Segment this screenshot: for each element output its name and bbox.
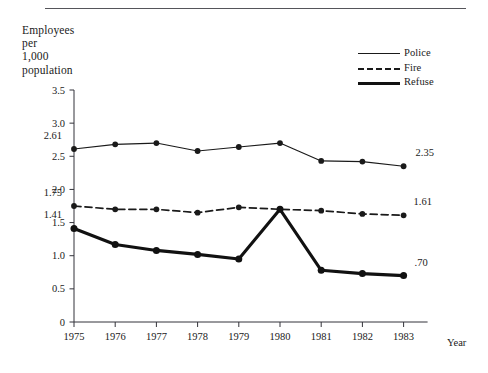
chart-container: Employees per 1,000 population Police Fi… bbox=[0, 0, 488, 373]
y-tick-label: 2.5 bbox=[52, 151, 65, 162]
point-label: 2.35 bbox=[416, 147, 434, 158]
y-tick-label: 0 bbox=[60, 317, 65, 328]
data-point-police bbox=[71, 146, 77, 152]
data-point-refuse bbox=[400, 272, 407, 279]
data-point-police bbox=[401, 163, 407, 169]
x-tick-label: 1982 bbox=[352, 331, 373, 342]
data-point-refuse bbox=[235, 256, 242, 263]
data-series bbox=[71, 140, 408, 279]
x-tick-label: 1983 bbox=[393, 331, 414, 342]
point-labels: 2.612.351.751.611.41.70 bbox=[44, 130, 434, 268]
y-axis: 00.51.01.52.02.53.03.5 bbox=[52, 85, 74, 328]
x-tick-label: 1978 bbox=[187, 331, 208, 342]
series-line-refuse bbox=[74, 209, 404, 275]
data-point-police bbox=[154, 140, 160, 146]
y-tick-label: 3.5 bbox=[52, 85, 65, 96]
data-point-fire bbox=[154, 206, 160, 212]
x-axis-caption: Year bbox=[447, 337, 466, 348]
y-tick-label: 3.0 bbox=[52, 118, 65, 129]
data-point-refuse bbox=[112, 241, 119, 248]
point-label: 1.41 bbox=[44, 209, 62, 220]
x-axis: 197519761977197819791980198119821983 bbox=[64, 322, 428, 342]
x-tick-label: 1975 bbox=[64, 331, 85, 342]
plot-area: 00.51.01.52.02.53.03.5 19751976197719781… bbox=[0, 0, 488, 373]
data-point-refuse bbox=[153, 247, 160, 254]
x-tick-label: 1979 bbox=[228, 331, 249, 342]
data-point-fire bbox=[112, 206, 118, 212]
x-tick-label: 1976 bbox=[105, 331, 126, 342]
data-point-police bbox=[277, 140, 283, 146]
data-point-refuse bbox=[277, 206, 284, 213]
data-point-fire bbox=[195, 210, 201, 216]
data-point-refuse bbox=[359, 270, 366, 277]
data-point-fire bbox=[401, 212, 407, 218]
data-point-fire bbox=[360, 211, 366, 217]
point-label: 1.75 bbox=[44, 187, 62, 198]
y-tick-label: 1.0 bbox=[52, 250, 65, 261]
data-point-fire bbox=[318, 208, 324, 214]
data-point-refuse bbox=[318, 267, 325, 274]
data-point-fire bbox=[236, 204, 242, 210]
data-point-police bbox=[236, 144, 242, 150]
data-point-fire bbox=[71, 203, 77, 209]
data-point-refuse bbox=[194, 251, 201, 258]
data-point-police bbox=[360, 159, 366, 165]
data-point-police bbox=[112, 141, 118, 147]
point-label: .70 bbox=[415, 257, 428, 268]
x-tick-label: 1980 bbox=[270, 331, 291, 342]
data-point-police bbox=[195, 148, 201, 154]
data-point-refuse bbox=[71, 225, 78, 232]
x-tick-label: 1977 bbox=[146, 331, 167, 342]
x-tick-label: 1981 bbox=[311, 331, 332, 342]
point-label: 1.61 bbox=[414, 196, 432, 207]
point-label: 2.61 bbox=[44, 130, 62, 141]
y-tick-label: 0.5 bbox=[52, 283, 65, 294]
data-point-police bbox=[318, 158, 324, 164]
